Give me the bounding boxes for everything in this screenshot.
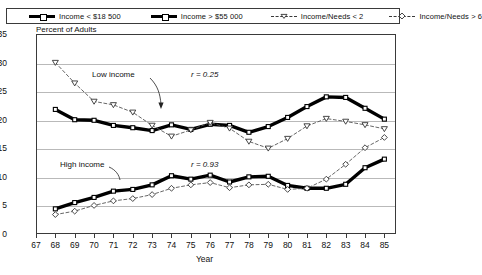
x-tick-label: 71 [109,240,118,250]
x-tick-mark [75,234,76,238]
x-tick-mark [210,234,211,238]
legend-label: Income/Needs > 6 [419,12,482,21]
annotation-low-income: Low income [92,70,135,79]
x-tick-label: 77 [225,240,234,250]
plot-area [36,34,396,234]
y-tick-label: 5 [0,200,7,210]
legend-item-income-lt-18500: Income < $18 500 [29,12,121,21]
x-tick-mark [36,234,37,238]
legend-item-income-needs-lt-2: Income/Needs < 2 [271,12,364,21]
legend-key-thick-square-icon [29,12,55,20]
legend-key-dashed-triangle-icon [271,12,297,20]
y-tick-label: 0 [0,229,7,239]
x-tick-mark [365,234,366,238]
gridline [37,178,395,179]
y-tick-label: 15 [0,143,7,153]
x-tick-label: 74 [167,240,176,250]
y-tick-label: 30 [0,58,7,68]
x-tick-mark [346,234,347,238]
x-tick-mark [288,234,289,238]
x-tick-label: 79 [264,240,273,250]
legend-key-dashed-diamond-icon [389,12,415,20]
x-tick-mark [152,234,153,238]
x-tick-mark [307,234,308,238]
y-axis-title: Percent of Adults [36,25,96,34]
x-tick-label: 68 [51,240,60,250]
annotation-r-low: r = 0.25 [191,70,218,79]
legend-item-income-gt-55000: Income > $55 000 [151,12,243,21]
x-tick-mark [171,234,172,238]
y-tick-label: 20 [0,115,7,125]
annotation-r-high: r = 0.93 [191,160,218,169]
gridline [37,64,395,65]
x-tick-label: 81 [302,240,311,250]
gridline [37,206,395,207]
legend-key-thick-square-icon [151,12,177,20]
x-tick-mark [133,234,134,238]
annotation-high-income: High income [60,160,104,169]
y-tick-label: 35 [0,29,7,39]
x-tick-label: 69 [70,240,79,250]
x-tick-label: 84 [360,240,369,250]
x-tick-mark [94,234,95,238]
legend-label: Income < $18 500 [59,12,121,21]
x-tick-mark [55,234,56,238]
chart-legend: Income < $18 500 Income > $55 000 Income… [6,8,400,24]
legend-label: Income/Needs < 2 [301,12,364,21]
x-tick-label: 78 [244,240,253,250]
legend-label: Income > $55 000 [181,12,243,21]
x-axis-title: Year [0,254,409,264]
y-tick-label: 10 [0,172,7,182]
x-tick-label: 85 [380,240,389,250]
x-tick-mark [384,234,385,238]
y-tick-label: 25 [0,86,7,96]
x-tick-label: 80 [283,240,292,250]
gridline [37,92,395,93]
x-tick-mark [191,234,192,238]
x-tick-label: 83 [341,240,350,250]
x-tick-label: 72 [128,240,137,250]
x-tick-mark [249,234,250,238]
x-tick-label: 73 [147,240,156,250]
x-tick-mark [230,234,231,238]
gridline [37,149,395,150]
legend-item-income-needs-gt-6: Income/Needs > 6 [389,12,482,21]
gridline [37,121,395,122]
x-tick-mark [326,234,327,238]
x-tick-label: 76 [205,240,214,250]
x-tick-mark [113,234,114,238]
x-tick-label: 82 [322,240,331,250]
x-tick-label: 67 [31,240,40,250]
x-tick-mark [268,234,269,238]
x-tick-label: 75 [186,240,195,250]
x-tick-label: 70 [89,240,98,250]
